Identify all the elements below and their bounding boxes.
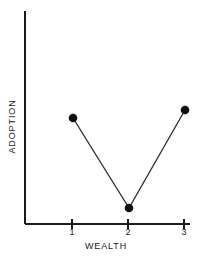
x-tick-label-2: 2 [120,228,136,237]
y-axis-label: ADOPTION [8,97,17,157]
data-point-marker [125,204,134,213]
data-point-marker [181,106,190,115]
x-tick-label-3: 3 [176,228,192,237]
data-point-marker [69,114,78,123]
x-tick-label-1: 1 [64,228,80,237]
data-series-line [73,110,185,208]
plot-area [0,0,199,260]
x-axis-label: WEALTH [60,242,152,251]
chart-figure: ADOPTION WEALTH 1 2 3 [0,0,199,260]
